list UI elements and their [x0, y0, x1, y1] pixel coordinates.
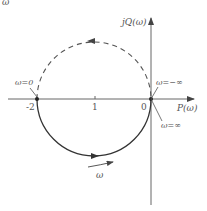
leader-omega-neg-inf — [151, 87, 158, 99]
point-omega-zero — [35, 97, 39, 101]
lower-curve-arrow-icon — [91, 153, 99, 159]
corner-fragment-text: ω — [2, 0, 10, 7]
x-axis-label: P(ω) — [176, 103, 198, 113]
upper-dashed-curve — [37, 42, 151, 99]
omega-zero-label: ω=0 — [15, 78, 33, 87]
omega-neg-inf-label: ω=−∞ — [156, 78, 183, 87]
leader-omega-zero — [30, 88, 37, 97]
nyquist-diagram: ω -2 1 0 P(ω) jQ(ω) ω=0 ω=−∞ ω=∞ ω — [0, 0, 207, 211]
omega-direction-label: ω — [96, 170, 104, 180]
tick-label-1: 1 — [92, 102, 98, 112]
upper-curve-arrow-icon — [87, 38, 95, 44]
y-axis-label: jQ(ω) — [120, 17, 147, 27]
tick-label-0: 0 — [141, 102, 147, 112]
tick-label-neg2: -2 — [26, 102, 35, 112]
omega-direction-arrow-icon — [88, 162, 113, 167]
omega-pos-inf-label: ω=∞ — [161, 121, 181, 130]
leader-omega-pos-inf — [151, 99, 162, 121]
